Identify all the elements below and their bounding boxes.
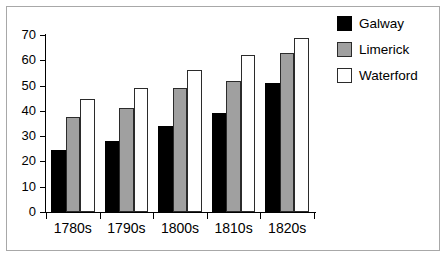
y-tick-label-text: 10: [0, 180, 36, 193]
y-tick-label: 50: [0, 79, 36, 92]
x-tick-mark: [260, 213, 261, 219]
bar-limerick-1790s[interactable]: [119, 108, 134, 212]
x-axis-label-1790s: 1790s: [100, 221, 154, 235]
y-tick-label: 40: [0, 104, 36, 117]
bar-waterford-1810s[interactable]: [241, 55, 256, 212]
y-tick-label: 60: [0, 53, 36, 66]
bar-chart-figure: 010203040506070 1780s1790s1800s1810s1820…: [0, 0, 447, 258]
x-axis-label-1810s: 1810s: [207, 221, 261, 235]
bar-group: [260, 35, 314, 212]
legend-label-text: Waterford: [359, 69, 418, 83]
bar-waterford-1790s[interactable]: [134, 88, 149, 212]
chart-legend: GalwayLimerickWaterford: [337, 16, 418, 94]
y-tick-label: 0: [0, 205, 36, 218]
x-tick-mark: [314, 213, 315, 219]
legend-label-text: Galway: [359, 17, 404, 31]
y-tick-label-text: 30: [0, 129, 36, 142]
plot-area: [46, 35, 314, 212]
y-tick-label: 70: [0, 28, 36, 41]
bar-limerick-1820s[interactable]: [280, 53, 295, 212]
bar-waterford-1800s[interactable]: [187, 70, 202, 212]
legend-item-limerick[interactable]: Limerick: [337, 42, 418, 57]
bar-group: [46, 35, 100, 212]
y-tick-label-text: 20: [0, 154, 36, 167]
x-tick-mark: [46, 213, 47, 219]
y-tick-label: 30: [0, 129, 36, 142]
legend-swatch-waterford: [337, 68, 352, 83]
legend-label-text: Limerick: [359, 43, 409, 57]
bar-waterford-1780s[interactable]: [80, 99, 95, 212]
bar-galway-1810s[interactable]: [212, 113, 227, 212]
legend-item-galway[interactable]: Galway: [337, 16, 418, 31]
bar-limerick-1780s[interactable]: [66, 117, 81, 212]
x-tick-mark: [100, 213, 101, 219]
legend-item-waterford[interactable]: Waterford: [337, 68, 418, 83]
bar-limerick-1810s[interactable]: [226, 81, 241, 212]
bar-galway-1790s[interactable]: [105, 141, 120, 212]
x-tick-mark: [207, 213, 208, 219]
legend-swatch-galway: [337, 16, 352, 31]
y-tick-label: 10: [0, 180, 36, 193]
bar-group: [153, 35, 207, 212]
x-axis-label-1780s: 1780s: [46, 221, 100, 235]
x-axis-label-1800s: 1800s: [153, 221, 207, 235]
bar-waterford-1820s[interactable]: [294, 38, 309, 212]
bar-galway-1780s[interactable]: [51, 150, 66, 212]
bar-group: [207, 35, 261, 212]
x-axis-line: [45, 212, 316, 213]
y-tick-label-text: 0: [0, 205, 36, 218]
y-tick-label-text: 50: [0, 79, 36, 92]
bar-galway-1820s[interactable]: [265, 83, 280, 212]
y-tick-label: 20: [0, 154, 36, 167]
y-tick-label-text: 60: [0, 53, 36, 66]
x-axis-label-1820s: 1820s: [260, 221, 314, 235]
bar-group: [100, 35, 154, 212]
legend-swatch-limerick: [337, 42, 352, 57]
bar-limerick-1800s[interactable]: [173, 88, 188, 212]
x-tick-mark: [153, 213, 154, 219]
y-tick-label-text: 40: [0, 104, 36, 117]
y-tick-label-text: 70: [0, 28, 36, 41]
bar-galway-1800s[interactable]: [158, 126, 173, 212]
